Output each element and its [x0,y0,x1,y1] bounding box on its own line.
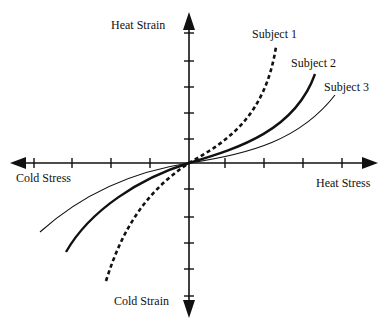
cold-strain-label: Cold Strain [114,294,169,308]
stress-strain-diagram: Heat Strain Cold Strain Cold Stress Heat… [0,0,386,329]
x-axis-right-arrow-icon [362,157,378,169]
subject-2-label: Subject 2 [291,56,336,70]
subject-3-label: Subject 3 [324,80,369,94]
diagram-canvas [0,0,386,329]
x-axis-left-arrow-icon [10,157,26,169]
heat-strain-label: Heat Strain [111,18,165,32]
y-axis-up-arrow-icon [183,12,195,30]
cold-stress-label: Cold Stress [16,171,71,185]
subject-1-label: Subject 1 [252,27,297,41]
curve-subject-1 [106,47,276,281]
y-axis-down-arrow-icon [183,300,195,318]
x-axis [10,157,378,169]
heat-stress-label: Heat Stress [316,176,370,190]
